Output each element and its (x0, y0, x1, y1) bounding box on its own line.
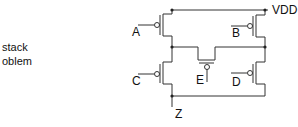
node-dot-z (170, 94, 173, 97)
label-a: A (132, 25, 140, 39)
node-dot-top-left (170, 8, 173, 11)
label-c: C (132, 74, 141, 88)
label-e: E (196, 73, 204, 87)
node-dot-vdd (263, 8, 266, 11)
node-dot-mid-left (170, 45, 173, 48)
label-d: D (232, 75, 241, 89)
node-dot-mid-right (263, 45, 266, 48)
label-b: B (232, 26, 240, 40)
pmos-circuit-diagram: VDD A B C E D Z (0, 0, 298, 127)
label-z: Z (175, 107, 182, 121)
label-vdd: VDD (272, 3, 298, 17)
